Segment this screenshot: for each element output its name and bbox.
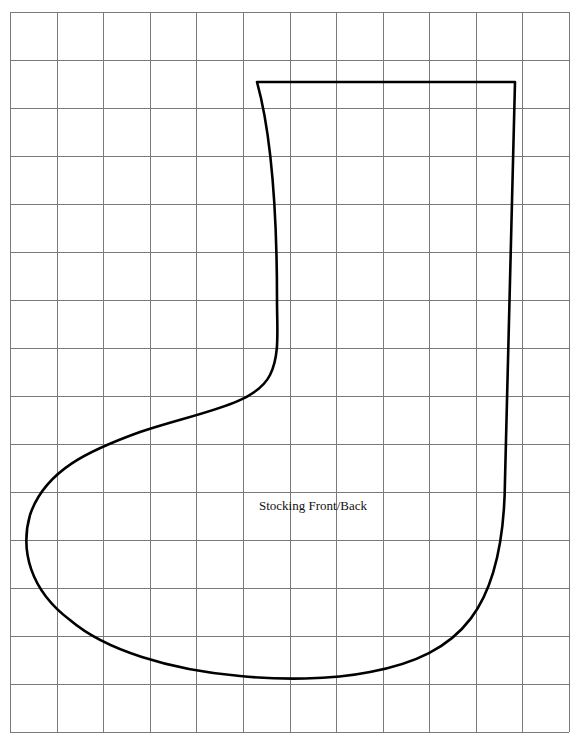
grid-lines: [10, 12, 570, 733]
stocking-outline: [26, 82, 515, 679]
pattern-canvas: [0, 0, 579, 748]
pattern-piece-label: Stocking Front/Back: [259, 498, 367, 514]
